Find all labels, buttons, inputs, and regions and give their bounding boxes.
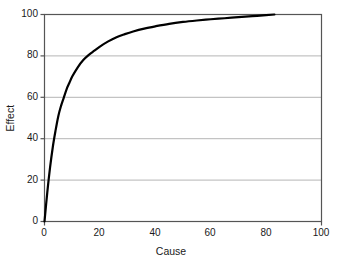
ytick-label-100: 100 — [14, 9, 38, 19]
xtick-label-20: 20 — [85, 228, 113, 238]
xtick-label-40: 40 — [141, 228, 169, 238]
xtick-label-80: 80 — [252, 228, 280, 238]
plot-border — [45, 15, 322, 222]
xtick-label-60: 60 — [196, 228, 224, 238]
y-axis-title: Effect — [5, 88, 16, 148]
plot-frame — [45, 15, 322, 222]
chart-figure: 100 80 60 40 20 0 0 20 40 60 80 100 Caus… — [0, 0, 342, 266]
x-axis-title: Cause — [0, 246, 342, 257]
xtick-label-0: 0 — [30, 228, 58, 238]
axis-ticks — [41, 15, 322, 226]
data-series — [45, 15, 275, 222]
plot-canvas — [0, 0, 342, 266]
ytick-label-0: 0 — [14, 216, 38, 226]
ytick-label-80: 80 — [14, 50, 38, 60]
ytick-label-60: 60 — [14, 92, 38, 102]
ytick-label-20: 20 — [14, 175, 38, 185]
series-line — [45, 15, 275, 222]
gridlines — [45, 56, 322, 180]
xtick-label-100: 100 — [307, 228, 335, 238]
ytick-label-40: 40 — [14, 133, 38, 143]
